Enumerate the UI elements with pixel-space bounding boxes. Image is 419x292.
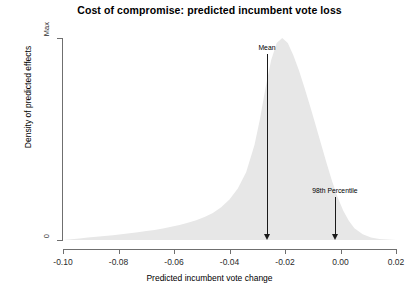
- plot-area: [63, 38, 396, 240]
- x-tick: [396, 249, 397, 254]
- x-tick-label: -0.04: [220, 257, 239, 267]
- x-tick: [285, 249, 286, 254]
- chart-container: Cost of compromise: predicted incumbent …: [0, 0, 419, 292]
- x-axis-title: Predicted incumbent vote change: [0, 273, 419, 283]
- density-area: [63, 38, 396, 240]
- y-tick-label-max: Max: [42, 22, 51, 36]
- x-tick: [119, 249, 120, 254]
- annotation-arrow-line-mean: [267, 54, 268, 234]
- y-tick-zero: [57, 240, 63, 241]
- annotation-label-percentile: 98th Percentile: [312, 187, 357, 194]
- annotation-arrow-head-mean: [264, 234, 270, 240]
- y-tick-label-zero: 0: [42, 234, 51, 238]
- x-tick: [341, 249, 342, 254]
- x-tick: [230, 249, 231, 254]
- y-axis-title: Density of predicted effects: [23, 17, 33, 177]
- x-tick-label: -0.08: [109, 257, 128, 267]
- x-tick-label: -0.06: [164, 257, 183, 267]
- annotation-label-mean: Mean: [258, 44, 275, 51]
- annotation-arrow-line-percentile: [335, 197, 336, 234]
- chart-title: Cost of compromise: predicted incumbent …: [0, 4, 419, 16]
- x-tick-label: 0.02: [388, 257, 405, 267]
- x-tick-label: -0.02: [275, 257, 294, 267]
- x-tick: [174, 249, 175, 254]
- annotation-arrow-head-percentile: [332, 234, 338, 240]
- x-tick-label: 0.00: [332, 257, 349, 267]
- x-tick: [63, 249, 64, 254]
- x-tick-label: -0.10: [53, 257, 72, 267]
